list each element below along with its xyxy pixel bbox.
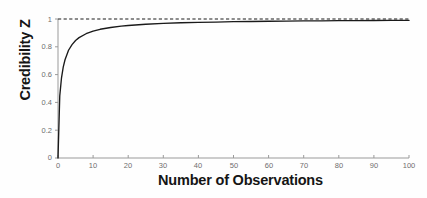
- credibility-curve: [58, 20, 409, 158]
- chart-figure: Credibility Z Number of Observations 1 0…: [0, 0, 427, 198]
- axis-lines: [58, 19, 409, 158]
- plot-area: [0, 0, 427, 198]
